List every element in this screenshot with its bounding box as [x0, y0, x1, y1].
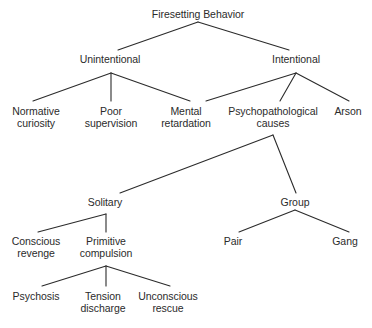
node-group: Group: [281, 196, 310, 208]
edge-intentional-to-arson: [296, 73, 349, 101]
firesetting-behavior-tree-diagram: Firesetting BehaviorUnintentionalIntenti…: [0, 0, 372, 328]
edge-group-to-pair: [239, 210, 295, 232]
node-normative_curiosity: Normative curiosity: [12, 105, 59, 129]
edge-unintentional-to-mental_retardation: [111, 73, 190, 101]
node-firesetting_behavior: Firesetting Behavior: [152, 8, 244, 20]
node-psychopathological_causes: Psychopathological causes: [228, 105, 318, 129]
node-pair: Pair: [224, 235, 242, 247]
node-gang: Gang: [332, 235, 358, 247]
node-conscious_revenge: Conscious revenge: [12, 235, 61, 259]
edge-psychopathological_causes-to-solitary: [120, 135, 273, 193]
node-arson: Arson: [334, 105, 361, 117]
node-tension_discharge: Tension discharge: [80, 290, 125, 314]
edge-firesetting_behavior-to-intentional: [198, 22, 289, 50]
edge-primitive_compulsion-to-unconscious_rescue: [106, 266, 170, 286]
edge-unintentional-to-normative_curiosity: [33, 73, 111, 101]
edge-psychopathological_causes-to-group: [273, 135, 296, 193]
node-unintentional: Unintentional: [80, 53, 141, 65]
node-unconscious_rescue: Unconscious rescue: [138, 290, 198, 314]
edge-primitive_compulsion-to-psychosis: [42, 266, 106, 286]
node-primitive_compulsion: Primitive compulsion: [80, 235, 133, 259]
node-poor_supervision: Poor supervision: [85, 105, 138, 129]
node-mental_retardation: Mental retardation: [161, 105, 211, 129]
node-solitary: Solitary: [88, 196, 123, 208]
node-psychosis: Psychosis: [13, 290, 60, 302]
edge-solitary-to-conscious_revenge: [38, 214, 106, 232]
node-intentional: Intentional: [272, 53, 320, 65]
edge-layer: [0, 0, 372, 328]
edge-firesetting_behavior-to-unintentional: [118, 22, 198, 50]
edge-group-to-gang: [295, 210, 349, 232]
